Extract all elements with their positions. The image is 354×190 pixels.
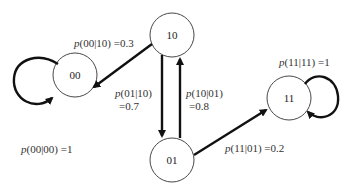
label-p10-01: p(10|01) [185,87,223,100]
label-p01-10-value: =0.7 [119,100,139,112]
edge-10-to-00 [94,44,152,87]
node-11: 11 [267,76,311,120]
state-diagram: 10 00 01 11 p(00|10) =0.3 p(01|10) =0.7 … [0,0,354,190]
node-00-label: 00 [70,69,82,81]
node-10-label: 10 [167,29,179,41]
node-00: 00 [53,53,97,97]
self-loop-00 [14,58,58,104]
node-01: 01 [150,138,194,182]
node-11-label: 11 [284,92,295,104]
label-p10-01-value: =0.8 [189,100,209,112]
node-01-label: 01 [167,154,178,166]
label-p00-10: p(00|10) =0.3 [73,37,134,50]
node-10: 10 [150,13,194,57]
label-p01-10: p(01|10) [114,87,152,100]
label-p11-01: p(11|01) =0.2 [224,142,284,155]
label-p11-11: p(11|11) =1 [278,56,330,69]
label-p00-00: p(00|00) =1 [20,143,72,156]
